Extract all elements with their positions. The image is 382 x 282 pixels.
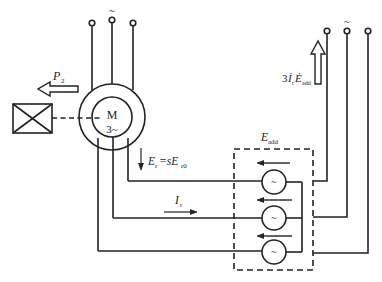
rotor-emf-label: E r =sE r0 — [147, 155, 187, 170]
svg-text:E: E — [260, 131, 268, 143]
svg-text:~: ~ — [271, 212, 277, 223]
rotor-emf-arrow — [139, 148, 144, 170]
output-power-label: P 2 — [52, 69, 65, 85]
circuit-diagram: ~ ~ M 3~ P 2 E r =sE r0 I r E add 3 İ r … — [0, 0, 382, 282]
svg-text:~: ~ — [271, 176, 277, 187]
source-symbols: ~ ~ ~ — [271, 176, 277, 257]
svg-text:~: ~ — [271, 246, 277, 257]
supply-tilde-left: ~ — [109, 4, 115, 16]
mechanical-load — [13, 104, 52, 133]
svg-text:r: r — [180, 201, 183, 209]
svg-text:r: r — [155, 162, 158, 170]
output-power-arrow — [38, 82, 78, 96]
svg-text:Ė: Ė — [294, 72, 302, 84]
svg-text:add: add — [302, 80, 311, 86]
svg-text:r: r — [292, 80, 294, 86]
emf-sources — [262, 170, 302, 264]
svg-text:r0: r0 — [181, 162, 187, 170]
svg-text:P: P — [52, 69, 61, 83]
motor-symbol-label: M — [107, 108, 118, 122]
rotor-current-arrow — [164, 210, 197, 215]
feedback-power-label: 3 İ r Ė add — [282, 72, 311, 86]
rotor-current-label: I r — [174, 194, 183, 209]
motor-phase-label: 3~ — [106, 123, 118, 135]
supply-tilde-right: ~ — [344, 15, 350, 27]
feedback-power-arrow — [311, 41, 325, 84]
svg-text:2: 2 — [61, 77, 65, 85]
rotor-leads — [98, 137, 262, 251]
added-emf-label: E add — [260, 131, 279, 146]
svg-text:add: add — [268, 138, 279, 146]
svg-text:=sE: =sE — [159, 155, 178, 167]
svg-text:E: E — [147, 155, 155, 167]
emf-direction-arrows — [257, 161, 292, 239]
left-supply-terminals — [89, 17, 136, 90]
